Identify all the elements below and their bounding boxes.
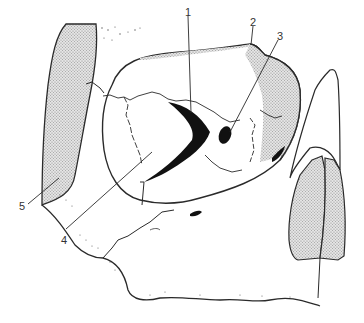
left-stippled-bone	[42, 24, 97, 205]
anatomical-figure: 1 2 3 4 5	[0, 0, 364, 323]
callout-label-4: 4	[61, 235, 67, 246]
callout-label-1: 1	[185, 7, 191, 18]
figure-drawing	[0, 0, 364, 323]
black-crescent	[144, 102, 210, 182]
black-oval	[216, 124, 233, 145]
callout-label-3: 3	[277, 31, 283, 42]
callout-label-2: 2	[250, 17, 256, 28]
callout-label-5: 5	[19, 201, 25, 212]
maxilla-outline	[42, 205, 320, 306]
stipple-specks-top	[101, 26, 140, 40]
nasal-stippled	[289, 156, 325, 260]
